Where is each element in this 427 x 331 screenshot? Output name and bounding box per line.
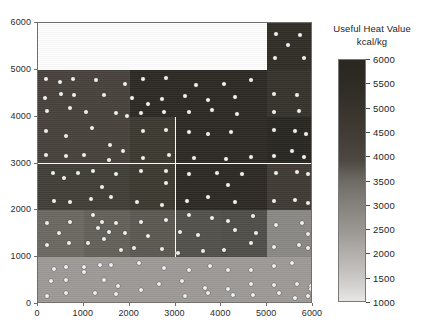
data-point	[164, 181, 168, 185]
data-point	[192, 156, 196, 160]
data-point	[249, 268, 253, 272]
data-point	[272, 245, 276, 249]
colorbar-tick-mark	[366, 205, 370, 206]
data-point	[160, 203, 164, 207]
scatter-points-layer	[38, 23, 311, 302]
data-point	[194, 83, 198, 87]
data-point	[107, 158, 111, 162]
data-point	[249, 78, 253, 82]
colorbar-tick-label: 1000	[373, 297, 395, 308]
data-point	[187, 110, 191, 114]
y-tick-mark	[34, 116, 37, 117]
data-point	[233, 200, 237, 204]
data-point	[274, 171, 278, 175]
y-tick-mark	[34, 209, 37, 210]
heatmap-figure: 0100020003000400050006000 01000200030004…	[0, 0, 427, 331]
data-point	[162, 110, 166, 114]
data-point	[164, 169, 168, 173]
data-point	[141, 77, 145, 81]
data-point	[94, 78, 98, 82]
y-tick-label: 6000	[0, 17, 31, 27]
data-point	[229, 130, 233, 134]
data-point	[141, 129, 145, 133]
data-point	[125, 114, 129, 118]
data-point	[82, 270, 86, 274]
data-point	[91, 213, 95, 217]
data-point	[302, 56, 306, 60]
data-point	[226, 219, 230, 223]
y-tick-mark	[34, 69, 37, 70]
data-point	[64, 278, 68, 282]
data-point	[96, 226, 100, 230]
colorbar-gradient	[338, 59, 366, 302]
data-point	[290, 149, 294, 153]
data-point	[52, 199, 56, 203]
legend-title-line2: kcal/kg	[320, 35, 424, 48]
data-point	[89, 197, 93, 201]
data-point	[208, 264, 212, 268]
data-point	[240, 172, 244, 176]
data-point	[224, 157, 228, 161]
data-point	[309, 287, 312, 291]
x-tick-mark	[129, 303, 130, 306]
data-point	[272, 154, 276, 158]
data-point	[187, 213, 191, 217]
y-tick-label: 2000	[0, 204, 31, 214]
data-point	[44, 153, 48, 157]
colorbar-tick-label: 3500	[373, 175, 395, 186]
data-point	[176, 251, 180, 255]
x-tick-mark	[266, 303, 267, 306]
data-point	[107, 230, 111, 234]
data-point	[304, 132, 308, 136]
data-point	[206, 195, 210, 199]
x-tick-mark	[37, 303, 38, 306]
data-point	[185, 199, 189, 203]
colorbar-tick-label: 6000	[373, 54, 395, 65]
data-point	[141, 156, 145, 160]
data-point	[137, 261, 141, 265]
data-point	[139, 169, 143, 173]
data-point	[306, 232, 310, 236]
data-point	[235, 112, 239, 116]
y-tick-label: 1000	[0, 251, 31, 261]
data-point	[44, 129, 48, 133]
data-point	[164, 128, 168, 132]
data-point	[249, 155, 253, 159]
data-point	[68, 106, 72, 110]
data-point	[187, 172, 191, 176]
data-point	[116, 284, 120, 288]
data-point	[59, 92, 63, 96]
data-point	[183, 294, 187, 298]
data-point	[206, 291, 210, 295]
data-point	[254, 231, 258, 235]
data-point	[162, 266, 166, 270]
colorbar-tick-mark	[366, 229, 370, 230]
data-point	[139, 288, 143, 292]
x-tick-label: 4000	[210, 308, 230, 318]
data-point	[114, 292, 118, 296]
data-point	[44, 77, 48, 81]
data-point	[302, 155, 306, 159]
data-point	[297, 243, 301, 247]
data-point	[109, 195, 113, 199]
colorbar-tick-label: 2000	[373, 248, 395, 259]
data-point	[84, 110, 88, 114]
x-tick-label: 6000	[302, 308, 322, 318]
y-tick-mark	[34, 22, 37, 23]
data-point	[51, 171, 55, 175]
data-point	[64, 265, 68, 269]
data-point	[272, 110, 276, 114]
y-tick-label: 5000	[0, 64, 31, 74]
x-tick-mark	[175, 303, 176, 306]
data-point	[58, 80, 62, 84]
data-point	[82, 265, 86, 269]
y-tick-mark	[34, 256, 37, 257]
colorbar-tick-label: 5500	[373, 78, 395, 89]
colorbar-tick-mark	[366, 302, 370, 303]
data-point	[226, 268, 230, 272]
data-point	[295, 93, 299, 97]
x-tick-label: 1000	[73, 308, 93, 318]
data-point	[160, 97, 164, 101]
data-point	[233, 228, 237, 232]
data-point	[64, 134, 68, 138]
